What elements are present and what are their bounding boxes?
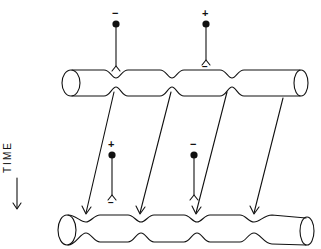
bottom-marker-1 [108, 151, 116, 200]
bottom-strand-upper-edge [68, 215, 306, 222]
marker-fork-icon [112, 66, 120, 71]
arrow-4 [254, 98, 283, 213]
arrow-3 [196, 92, 227, 213]
arrow-2 [140, 92, 171, 213]
top-marker-2-lower-sign: − [202, 62, 208, 72]
marker-fork-icon [190, 195, 198, 200]
top-strand-right-cap [294, 70, 308, 96]
top-marker-2-sign: + [202, 8, 208, 19]
top-strand [62, 70, 308, 96]
bottom-strand-left-cap [58, 215, 76, 245]
bottom-marker-2 [190, 151, 198, 200]
time-arrow-icon [13, 178, 21, 209]
bottom-marker-2-sign: − [190, 139, 196, 150]
top-strand-upper-edge [72, 70, 300, 78]
top-marker-1 [112, 20, 120, 71]
top-marker-1-sign: − [112, 8, 118, 19]
bottom-marker-1-sign: + [108, 139, 114, 150]
diagram-canvas [0, 0, 321, 249]
bottom-strand [58, 215, 314, 245]
top-strand-left-cap [62, 70, 80, 96]
bottom-strand-lower-edge [68, 233, 306, 245]
top-marker-2 [202, 20, 210, 65]
bottom-marker-1-lower-sign: − [108, 198, 114, 208]
top-strand-lower-edge [72, 87, 300, 96]
bottom-strand-right-cap [300, 217, 314, 245]
time-axis-label: TIME [2, 141, 13, 173]
